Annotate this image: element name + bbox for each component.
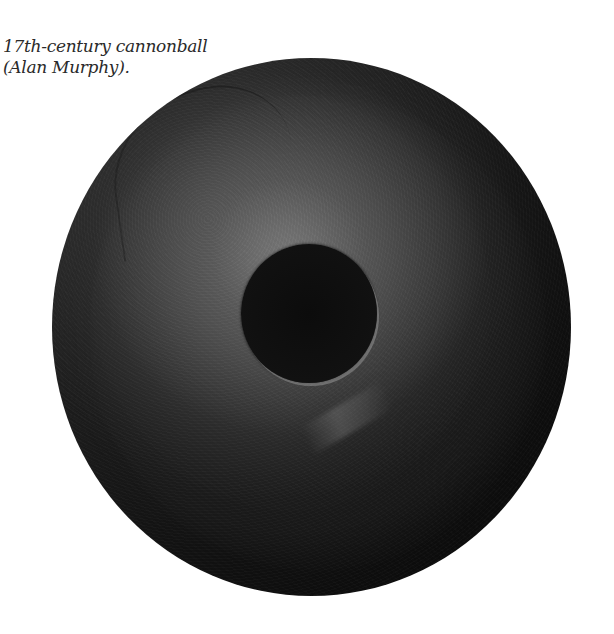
caption-line-title: 17th-century cannonball xyxy=(3,36,207,57)
caption-line-credit: (Alan Murphy). xyxy=(3,57,207,78)
figure-caption: 17th-century cannonball (Alan Murphy). xyxy=(3,36,207,78)
cannonball-photo xyxy=(52,58,571,596)
fuse-hole xyxy=(241,244,377,383)
